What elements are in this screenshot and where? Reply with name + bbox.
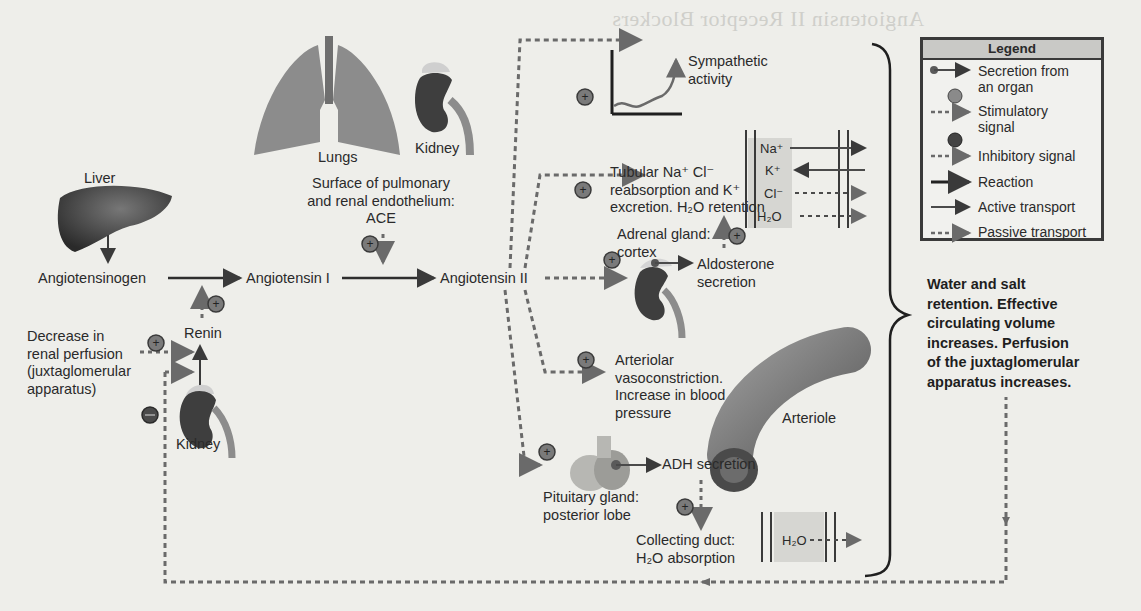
tubular-reabsorption-label: Tubular Na⁺ Cl⁻ reabsorption and K⁺ excr… xyxy=(610,164,765,217)
svg-text:+: + xyxy=(366,237,373,251)
svg-text:+: + xyxy=(608,253,615,267)
raas-diagram: Angiotensin II Receptor Blockers xyxy=(0,0,1141,611)
kidney-top-label: Kidney xyxy=(415,140,459,158)
svg-text:+: + xyxy=(579,183,586,197)
legend-item-stimulatory: Stimulatory signal xyxy=(978,103,1048,135)
pituitary-illustration xyxy=(570,436,630,491)
lungs-illustration xyxy=(254,36,400,155)
svg-text:+: + xyxy=(581,90,588,104)
sympathetic-activity-label: Sympathetic activity xyxy=(688,53,768,88)
ion-cl: Cl⁻ xyxy=(764,185,783,203)
svg-text:+: + xyxy=(582,353,589,367)
arteriolar-vasoconstriction-label: Arteriolar vasoconstriction. Increase in… xyxy=(615,352,725,422)
endothelium-label: Surface of pulmonary and renal endotheli… xyxy=(268,175,494,228)
liver-label: Liver xyxy=(84,170,115,188)
svg-text:+: + xyxy=(681,500,688,514)
kidney-bottom-label: Kidney xyxy=(176,436,220,454)
pituitary-gland-label: Pituitary gland: posterior lobe xyxy=(543,489,639,524)
angiotensinogen-node: Angiotensinogen xyxy=(38,270,146,288)
ion-h2o-bottom: H₂O xyxy=(782,532,807,550)
legend-item-inhibitory: Inhibitory signal xyxy=(978,148,1075,164)
legend-title: Legend xyxy=(923,40,1101,60)
svg-text:+: + xyxy=(543,445,550,459)
collecting-duct-label: Collecting duct: H₂O absorption xyxy=(636,532,735,567)
legend-item-reaction: Reaction xyxy=(978,174,1033,190)
ion-na: Na⁺ xyxy=(760,140,783,158)
svg-text:+: + xyxy=(733,229,740,243)
angiotensin-ii-node: Angiotensin II xyxy=(440,270,528,288)
sympathetic-activity-graph xyxy=(612,50,682,114)
svg-text:+: + xyxy=(212,297,219,311)
arteriole-label: Arteriole xyxy=(782,410,836,428)
legend: Legend Secretion from an organ Stimulato… xyxy=(920,37,1104,241)
outcome-text: Water and salt retention. Effective circ… xyxy=(927,275,1079,392)
ace-label: ACE xyxy=(268,210,494,228)
legend-item-secretion: Secretion from an organ xyxy=(978,63,1069,95)
aldosterone-secretion-label: Aldosterone secretion xyxy=(697,256,774,291)
adh-secretion-label: ADH secretion xyxy=(662,456,755,474)
kidney-adrenal-illustration xyxy=(635,259,682,338)
decrease-renal-perfusion-label: Decrease in renal perfusion (juxtaglomer… xyxy=(27,328,131,398)
svg-text:+: + xyxy=(152,336,159,350)
angiotensin-i-node: Angiotensin I xyxy=(246,270,330,288)
legend-item-active-transport: Active transport xyxy=(978,199,1075,215)
ion-k: K⁺ xyxy=(765,162,781,180)
lungs-label: Lungs xyxy=(318,149,358,167)
membrane-bottom xyxy=(762,512,860,562)
legend-item-passive-transport: Passive transport xyxy=(978,224,1086,240)
ion-h2o: H₂O xyxy=(757,208,782,226)
renin-label: Renin xyxy=(184,325,222,343)
liver-illustration xyxy=(58,186,172,252)
